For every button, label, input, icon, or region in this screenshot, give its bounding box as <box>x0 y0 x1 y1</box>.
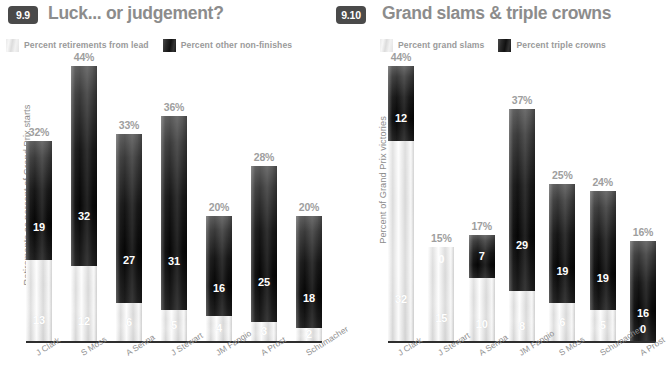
bar-total-label: 20% <box>209 201 229 213</box>
legend-item-triple-crowns: Percent triple crowns <box>498 39 606 52</box>
bar-column: 44%3212 <box>71 53 97 341</box>
bar-segment-value: 16 <box>206 283 232 294</box>
chart-badge-number: 9.10 <box>336 6 366 24</box>
bar-column: 15%150 <box>428 53 454 341</box>
stacked-bar: 17%710 <box>469 235 495 341</box>
bar-segment-value: 15 <box>428 313 454 324</box>
chart-header-right: 9.10 Grand slams & triple crowns <box>330 0 660 34</box>
bar-segment-value: 12 <box>388 113 414 124</box>
legend-label: Percent retirements from lead <box>24 40 149 50</box>
bar-segment-value: 31 <box>161 256 187 267</box>
stacked-bar: 28%253 <box>251 166 277 341</box>
bar-segment-light: 4 <box>206 316 232 341</box>
legend-label: Percent other non-finishes <box>181 40 292 50</box>
bar-column: 28%253 <box>251 53 277 341</box>
bar-segment-value-zero: 0 <box>428 253 454 265</box>
x-axis-label-cell: S Moss <box>549 343 575 390</box>
stacked-bar: 32%1913 <box>26 141 52 341</box>
x-axis-labels: J ClarkS MossA SennaJ StewartJM FangioA … <box>26 343 322 390</box>
chart-header-left: 9.9 Luck... or judgement? <box>0 0 330 34</box>
bar-segment-dark: 7 <box>469 235 495 279</box>
bar-segment-value: 6 <box>559 317 565 328</box>
bar-segment-dark: 18 <box>296 216 322 329</box>
chart-badge-number: 9.9 <box>8 6 38 24</box>
bar-total-label: 32% <box>29 126 49 138</box>
legend-label: Percent grand slams <box>398 40 484 50</box>
bar-segment-value: 2 <box>306 329 312 340</box>
bar-segment-value: 12 <box>71 316 97 327</box>
bar-column: 24%195 <box>590 53 616 341</box>
bar-segment-light: 6 <box>116 303 142 341</box>
legend-item-other-non-finishes: Percent other non-finishes <box>163 39 292 52</box>
bar-total-label: 15% <box>431 232 451 244</box>
chart-legend: Percent retirements from lead Percent ot… <box>6 38 292 52</box>
stacked-bar: 44%3212 <box>71 66 97 341</box>
bar-segment-value: 7 <box>479 251 485 262</box>
bar-total-label: 33% <box>119 119 139 131</box>
bar-column: 25%196 <box>549 53 575 341</box>
bar-segment-dark: 16 <box>206 216 232 316</box>
legend-swatch-light-icon <box>6 39 19 52</box>
bar-total-label: 25% <box>552 169 572 181</box>
bar-segment-light: 3 <box>251 322 277 341</box>
bar-segment-dark: 19 <box>549 184 575 303</box>
bar-segment-dark: 25 <box>251 166 277 323</box>
stacked-bar: 24%195 <box>590 191 616 341</box>
bars-container: 44%123215%15017%71037%29825%19624%19516%… <box>388 53 656 341</box>
chart-panel-luck-or-judgement: 9.9 Luck... or judgement? Percent retire… <box>0 0 330 390</box>
stacked-bar: 15%150 <box>428 247 454 341</box>
bar-segment-dark: 27 <box>116 134 142 303</box>
bar-segment-value: 29 <box>509 240 535 251</box>
x-axis-label-cell: Schumacher <box>296 343 322 390</box>
bar-segment-dark: 32 <box>71 66 97 266</box>
bar-segment-value: 13 <box>26 315 52 326</box>
x-axis-label-cell: A Senna <box>116 343 142 390</box>
bar-column: 33%276 <box>116 53 142 341</box>
bar-column: 37%298 <box>509 53 535 341</box>
stacked-bar: 44%1232 <box>388 66 414 341</box>
bar-segment-value: 6 <box>126 317 132 328</box>
bar-total-label: 44% <box>391 51 411 63</box>
bar-column: 17%710 <box>469 53 495 341</box>
y-axis-title: Percent of Grand Prix victories <box>378 55 388 305</box>
x-axis-label-cell: A Senna <box>469 343 495 390</box>
bars-container: 32%191344%321233%27636%31520%16428%25320… <box>26 53 322 341</box>
bar-segment-light: 10 <box>469 278 495 341</box>
bar-segment-dark: 12 <box>388 66 414 141</box>
bar-segment-light: 32 <box>388 141 414 341</box>
bar-segment-value: 5 <box>171 320 177 331</box>
x-axis-label-cell: JM Fangio <box>206 343 232 390</box>
bar-column: 32%1913 <box>26 53 52 341</box>
bar-segment-value: 16 <box>630 308 656 319</box>
bar-segment-light: 12 <box>71 266 97 341</box>
bar-segment-light: 8 <box>509 291 535 341</box>
stacked-bar: 37%298 <box>509 109 535 341</box>
bar-segment-value: 27 <box>116 255 142 266</box>
bar-column: 20%182 <box>296 53 322 341</box>
stacked-bar: 25%196 <box>549 184 575 341</box>
bar-segment-light: 5 <box>590 310 616 341</box>
bar-segment-dark: 19 <box>26 141 52 260</box>
bar-segment-value: 5 <box>600 320 606 331</box>
bar-segment-value: 25 <box>251 277 277 288</box>
stacked-bar: 36%315 <box>161 116 187 341</box>
plot-area-left: 32%191344%321233%27636%31520%16428%25320… <box>26 53 322 343</box>
bar-column: 36%315 <box>161 53 187 341</box>
bar-total-label: 17% <box>471 220 491 232</box>
stacked-bar: 20%164 <box>206 216 232 341</box>
x-axis-label-cell: A Prost <box>630 343 656 390</box>
x-axis-label-cell: S Moss <box>71 343 97 390</box>
x-axis-label-cell: Schumacher <box>590 343 616 390</box>
bar-total-label: 24% <box>592 176 612 188</box>
x-axis-label-cell: J Clark <box>388 343 414 390</box>
bar-segment-value: 19 <box>26 222 52 233</box>
bar-total-label: 44% <box>74 51 94 63</box>
x-axis-label-cell: A Prost <box>251 343 277 390</box>
x-axis-label-cell: J Stewart <box>428 343 454 390</box>
chart-title: Luck... or judgement? <box>48 3 224 24</box>
bar-total-label: 28% <box>254 151 274 163</box>
bar-column: 44%1232 <box>388 53 414 341</box>
x-axis-label-cell: JM Fangio <box>509 343 535 390</box>
chart-legend: Percent grand slams Percent triple crown… <box>380 38 606 52</box>
bar-segment-value: 10 <box>469 319 495 330</box>
